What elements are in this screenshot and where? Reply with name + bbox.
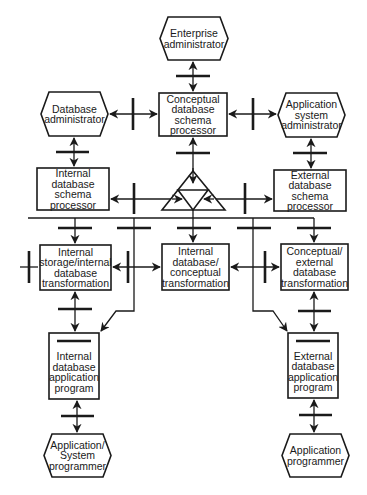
app-system-programmer-actor xyxy=(44,434,111,477)
conceptual-schema-processor-box xyxy=(159,93,227,136)
enterprise-admin-actor xyxy=(160,17,228,60)
app-system-admin-actor xyxy=(278,93,345,137)
schema-hub-triangle xyxy=(162,168,225,210)
app-programmer-actor xyxy=(282,434,349,477)
database-admin-actor xyxy=(41,92,108,136)
internal-app-program-box xyxy=(49,333,99,399)
internal-schema-processor-box xyxy=(37,168,109,210)
conceptual-external-transformation-box xyxy=(281,244,348,290)
diagram-canvas xyxy=(0,0,367,495)
external-app-program-box xyxy=(288,333,338,398)
external-schema-processor-box xyxy=(274,170,346,211)
internal-storage-transformation-box xyxy=(40,245,111,290)
internal-conceptual-transformation-box xyxy=(162,244,229,290)
